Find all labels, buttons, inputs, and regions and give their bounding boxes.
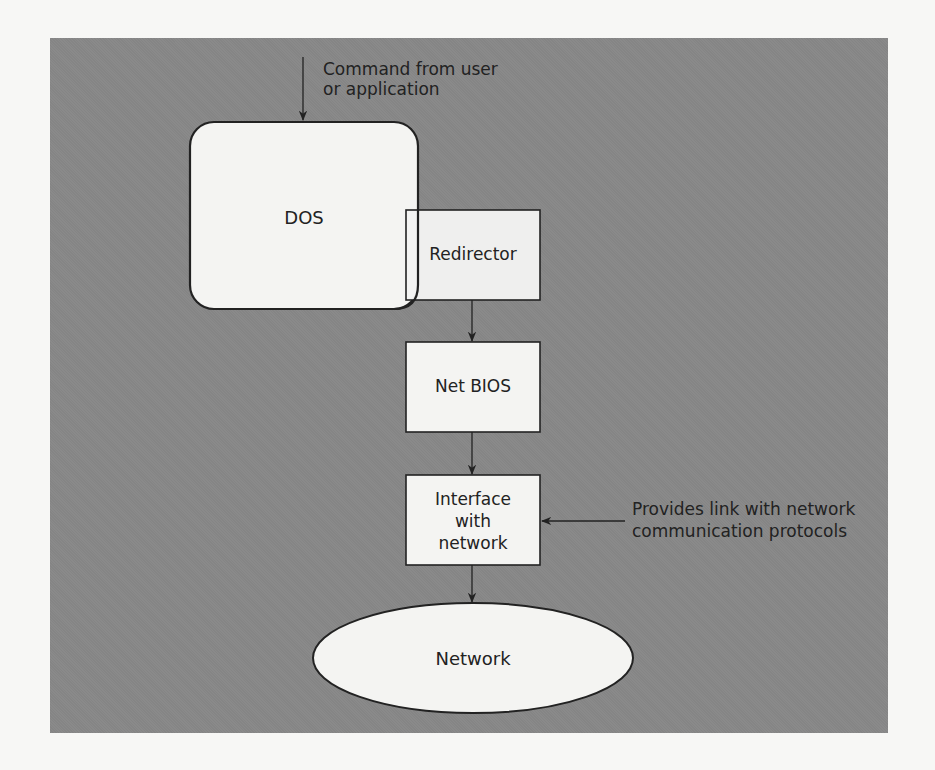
interface-label-line2: with <box>455 511 491 531</box>
protocols-label-line1: Provides link with network <box>632 499 855 519</box>
redirector-label: Redirector <box>429 244 517 264</box>
command-label-line1: Command from user <box>323 59 498 79</box>
diagram-canvas: Command from user or application DOS Red… <box>0 0 935 770</box>
protocols-label-line2: communication protocols <box>632 521 847 541</box>
netbios-label: Net BIOS <box>435 376 511 396</box>
network-label: Network <box>435 648 511 669</box>
interface-label-line1: Interface <box>435 489 511 509</box>
interface-label-line3: network <box>438 533 507 553</box>
dos-label: DOS <box>284 207 323 228</box>
command-label-line2: or application <box>323 79 440 99</box>
